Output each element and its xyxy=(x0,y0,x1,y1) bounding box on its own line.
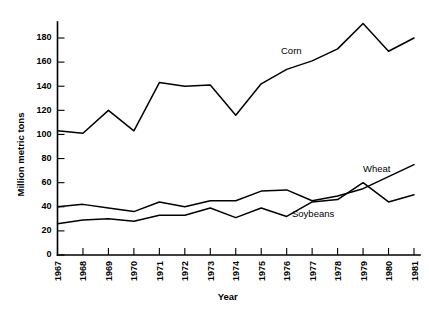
x-tick-label: 1974 xyxy=(231,261,241,281)
x-tick-label: 1973 xyxy=(206,261,216,281)
series-label-soybeans: Soybeans xyxy=(292,208,335,219)
x-tick-label: 1971 xyxy=(155,261,165,281)
y-axis-tick-labels: 020406080100120140160180 xyxy=(36,32,51,259)
y-tick-label: 140 xyxy=(36,81,51,91)
y-tick-label: 80 xyxy=(41,153,51,163)
y-axis-title: Million metric tons xyxy=(15,113,26,197)
x-tick-label: 1970 xyxy=(129,261,139,281)
y-tick-label: 120 xyxy=(36,105,51,115)
x-tick-label: 1981 xyxy=(410,261,420,281)
series-line-wheat xyxy=(58,165,415,212)
y-tick-label: 160 xyxy=(36,56,51,66)
x-tick-label: 1978 xyxy=(333,261,343,281)
y-tick-label: 60 xyxy=(41,177,51,187)
x-tick-label: 1972 xyxy=(180,261,190,281)
x-tick-label: 1979 xyxy=(359,261,369,281)
x-axis-title: Year xyxy=(218,291,238,302)
x-tick-label: 1975 xyxy=(257,261,267,281)
y-tick-label: 20 xyxy=(41,225,51,235)
y-tick-label: 40 xyxy=(41,201,51,211)
y-tick-label: 100 xyxy=(36,129,51,139)
data-series-group xyxy=(58,24,415,224)
x-tick-label: 1967 xyxy=(53,261,63,281)
x-tick-label: 1980 xyxy=(384,261,394,281)
series-label-group: CornWheatSoybeans xyxy=(281,45,391,219)
x-tick-label: 1977 xyxy=(308,261,318,281)
line-chart: 020406080100120140160180 Million metric … xyxy=(0,0,429,309)
x-tick-label: 1976 xyxy=(282,261,292,281)
series-line-corn xyxy=(58,24,415,134)
y-tick-label: 0 xyxy=(46,249,51,259)
chart-canvas: 020406080100120140160180 Million metric … xyxy=(0,0,429,309)
x-tick-label: 1969 xyxy=(104,261,114,281)
x-tick-label: 1968 xyxy=(78,261,88,281)
series-label-wheat: Wheat xyxy=(363,163,391,174)
x-axis: 1967196819691970197119721973197419751976… xyxy=(53,248,420,302)
series-label-corn: Corn xyxy=(281,45,302,56)
x-axis-tick-labels: 1967196819691970197119721973197419751976… xyxy=(53,261,420,281)
y-tick-label: 180 xyxy=(36,32,51,42)
x-axis-ticks xyxy=(58,248,415,255)
